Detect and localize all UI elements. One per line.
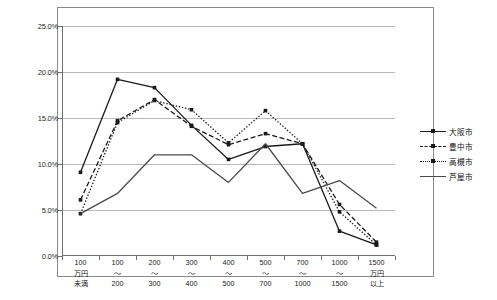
y-axis: 0.0%5.0%10.0%15.0%20.0%25.0% xyxy=(14,26,58,256)
series-芦屋市 xyxy=(81,144,377,214)
chart-legend: 大阪市豊中市高槻市芦屋市 xyxy=(420,124,473,184)
legend-item-豊中市[interactable]: 豊中市 xyxy=(420,139,473,154)
series-layer xyxy=(62,26,395,256)
data-point xyxy=(227,158,231,162)
x-axis: 100 万円 未満100 〜 200200 〜 300300 〜 400400 … xyxy=(62,258,395,300)
series-line xyxy=(81,101,377,245)
data-point xyxy=(338,229,342,233)
legend-label: 高槻市 xyxy=(449,156,473,167)
y-axis-label: 20.0% xyxy=(18,68,58,77)
data-point xyxy=(190,124,194,128)
data-point xyxy=(338,203,342,207)
legend-swatch-icon xyxy=(420,142,446,152)
legend-label: 芦屋市 xyxy=(449,171,473,182)
data-point xyxy=(79,198,83,202)
legend-marker-icon xyxy=(431,144,435,148)
data-point xyxy=(227,141,231,145)
legend-item-大阪市[interactable]: 大阪市 xyxy=(420,124,473,139)
line-chart: 0.0%5.0%10.0%15.0%20.0%25.0% 100 万円 未満10… xyxy=(0,0,497,300)
legend-swatch-icon xyxy=(420,127,446,137)
legend-label: 豊中市 xyxy=(449,141,473,152)
y-axis-label: 5.0% xyxy=(18,206,58,215)
series-line xyxy=(81,100,377,243)
legend-item-高槻市[interactable]: 高槻市 xyxy=(420,154,473,169)
series-豊中市 xyxy=(79,98,379,244)
legend-marker-icon xyxy=(431,159,435,163)
legend-label: 大阪市 xyxy=(449,126,473,137)
legend-line-icon xyxy=(420,176,446,177)
y-axis-label: 15.0% xyxy=(18,114,58,123)
series-line xyxy=(81,79,377,245)
data-point xyxy=(116,78,120,82)
data-point xyxy=(375,243,379,247)
data-point xyxy=(153,86,157,90)
data-point xyxy=(79,170,83,174)
legend-swatch-icon xyxy=(420,157,446,167)
series-line xyxy=(81,144,377,214)
data-point xyxy=(301,142,305,146)
data-point xyxy=(153,99,157,103)
data-point xyxy=(116,121,120,125)
series-高槻市 xyxy=(79,99,379,247)
data-point xyxy=(338,210,342,214)
data-point xyxy=(264,132,268,136)
legend-swatch-icon xyxy=(420,172,446,182)
y-axis-label: 25.0% xyxy=(18,22,58,31)
x-axis-label: 1500 万円 以上 xyxy=(349,258,405,290)
plot-area xyxy=(62,26,395,256)
y-axis-label: 10.0% xyxy=(18,160,58,169)
data-point xyxy=(190,108,194,112)
legend-marker-icon xyxy=(431,129,435,133)
series-大阪市 xyxy=(79,78,379,247)
legend-item-芦屋市[interactable]: 芦屋市 xyxy=(420,169,473,184)
data-point xyxy=(264,109,268,113)
